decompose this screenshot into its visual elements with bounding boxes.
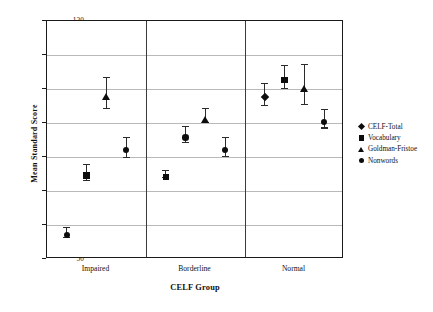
gridline-100 [47,89,342,90]
legend-item-nonwords[interactable]: Nonwords [357,155,417,166]
triangle-marker-icon [357,145,366,154]
gridline-110 [47,55,342,56]
error-bar-cap-lower [83,180,90,181]
triangle-marker-icon [102,93,110,100]
error-bar-cap-upper [162,170,169,171]
square-marker-icon [357,134,366,143]
x-tick-label-impaired: Impaired [51,264,141,273]
error-bar-cap-lower [222,156,229,157]
x-tick-label-borderline: Borderline [150,264,240,273]
error-bar-cap-upper [123,137,130,138]
square-marker-icon [163,174,169,180]
error-bar-cap-upper [182,126,189,127]
error-bar-cap-lower [123,157,130,158]
legend-item-label: Goldman-Fristoe [368,145,417,153]
error-bar-cap-upper [83,164,90,165]
chart-figure: Mean Standard Score 5060708090100110120 … [0,0,433,312]
circle-marker-icon [357,156,366,165]
triangle-marker-icon [300,85,308,92]
chart-legend: CELF-TotalVocabularyGoldman-FristoeNonwo… [355,119,420,170]
error-bar-cap-upper [103,77,110,78]
error-bar-cap-lower [281,88,288,89]
error-bar-cap-lower [182,142,189,143]
circle-marker-icon [321,119,327,125]
plot-area [46,20,343,258]
triangle-marker-icon [201,116,209,123]
square-marker-icon [83,172,89,178]
error-bar-cap-upper [202,108,209,109]
legend-item-label: Vocabulary [368,134,401,142]
error-bar-cap-upper [63,227,70,228]
error-bar-cap-upper [321,109,328,110]
y-axis-title: Mean Standard Score [30,84,39,204]
legend-item-label: CELF-Total [368,123,403,131]
diamond-marker-icon [261,93,269,101]
diamond-marker-icon [357,122,366,131]
circle-marker-icon [182,134,188,140]
circle-marker-icon [123,147,129,153]
error-bar-cap-upper [222,137,229,138]
circle-marker-icon [222,147,228,153]
gridline-60 [47,225,342,226]
legend-item-vocabulary[interactable]: Vocabulary [357,132,417,143]
error-bar-cap-lower [103,108,110,109]
group-separator-2 [245,21,246,257]
error-bar-cap-lower [261,105,268,106]
error-bar-cap-lower [321,127,328,128]
legend-item-label: Nonwords [368,157,398,165]
square-marker-icon [281,77,287,83]
error-bar-cap-upper [261,83,268,84]
error-bar-cap-upper [281,65,288,66]
gridline-80 [47,157,342,158]
gridline-70 [47,191,342,192]
error-bar-cap-upper [301,64,308,65]
x-axis-title: CELF Group [170,283,220,292]
error-bar-cap-lower [301,104,308,105]
group-separator-1 [146,21,147,257]
y-tick-mark-50 [42,258,46,259]
legend-item-celf-total[interactable]: CELF-Total [357,121,417,132]
legend-item-goldman-fristoe[interactable]: Goldman-Fristoe [357,144,417,155]
gridline-90 [47,123,342,124]
x-tick-label-normal: Normal [249,264,339,273]
